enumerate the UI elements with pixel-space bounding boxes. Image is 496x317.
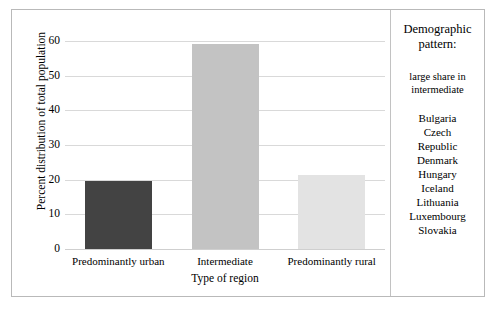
country-list-item: Luxembourg — [393, 209, 482, 223]
x-axis-tick-label: Intermediate — [167, 255, 284, 267]
country-list-item: Bulgaria — [393, 111, 482, 125]
country-list-item: Czech — [393, 125, 482, 139]
country-list-item: Republic — [393, 139, 482, 153]
panel-heading: Demographic pattern: — [393, 22, 482, 52]
country-list-item: Lithuania — [393, 195, 482, 209]
y-axis-tick-label: 20 — [0, 174, 60, 186]
country-list: BulgariaCzechRepublicDenmarkHungaryIcela… — [393, 111, 482, 237]
y-axis-tick-label: 40 — [0, 104, 60, 116]
bar — [298, 175, 365, 249]
x-axis-title: Type of region — [65, 272, 385, 284]
x-axis-tick-label: Predominantly urban — [60, 255, 177, 267]
figure-frame: Percent distribution of total population… — [11, 9, 485, 297]
bar-chart: Percent distribution of total population… — [12, 10, 390, 296]
panel-subtitle: large share in intermediate — [393, 70, 482, 96]
country-list-item: Denmark — [393, 153, 482, 167]
bar — [192, 44, 259, 249]
y-axis-tick-label: 10 — [0, 208, 60, 220]
country-list-item: Slovakia — [393, 223, 482, 237]
country-list-item: Hungary — [393, 167, 482, 181]
bar — [85, 181, 152, 249]
y-axis-tick-label: 0 — [0, 243, 60, 255]
gridline — [65, 41, 385, 42]
y-axis-tick-label: 50 — [0, 70, 60, 82]
side-panel: Demographic pattern: large share in inte… — [391, 10, 484, 296]
y-axis-title: Percent distribution of total population — [35, 21, 47, 221]
y-axis-tick-label: 60 — [0, 35, 60, 47]
x-axis-tick-label: Predominantly rural — [273, 255, 390, 267]
plot-area: 6050403020100 Predominantly urbanInterme… — [65, 41, 385, 249]
y-axis-tick-label: 30 — [0, 139, 60, 151]
gridline — [65, 249, 385, 250]
country-list-item: Iceland — [393, 181, 482, 195]
